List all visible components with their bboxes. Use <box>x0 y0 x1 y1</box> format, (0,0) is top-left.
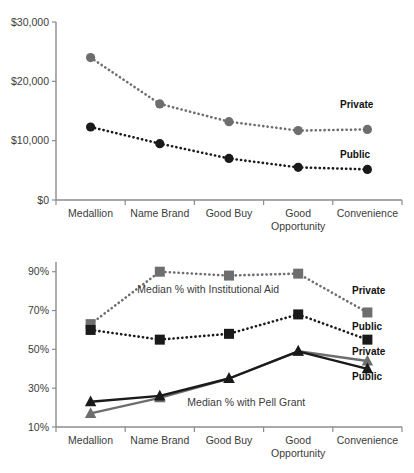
x-axis-tick-label: Medallion <box>68 207 113 219</box>
aid-pell-chart-panel: 10%30%50%70%90%MedallionName BrandGood B… <box>0 240 414 473</box>
data-point-marker <box>86 325 96 335</box>
data-point-marker <box>294 163 303 172</box>
series-label-private: Private <box>340 99 374 110</box>
series-institutional-aid-private <box>86 267 373 329</box>
series-label-public: Public <box>352 321 382 332</box>
y-axis-tick-label: $0 <box>37 194 49 206</box>
x-axis-tick-label: Convenience <box>337 207 398 219</box>
y-axis-tick-label: 70% <box>28 304 49 316</box>
x-axis-tick-label: Opportunity <box>271 220 326 232</box>
data-point-marker <box>224 271 234 281</box>
data-point-marker <box>155 335 165 345</box>
y-axis-tick-label: 30% <box>28 382 49 394</box>
series-institutional-aid-public <box>86 309 373 344</box>
data-point-marker <box>362 307 372 317</box>
data-point-marker <box>363 125 372 134</box>
data-point-marker <box>224 154 233 163</box>
data-point-marker <box>86 122 95 131</box>
series-label-private: Private <box>352 285 386 296</box>
data-point-marker <box>155 99 164 108</box>
data-point-marker <box>224 329 234 339</box>
x-axis-tick-label: Good <box>285 207 311 219</box>
chart-annotation: Median % with Institutional Aid <box>137 283 279 295</box>
data-point-marker <box>293 345 304 356</box>
data-point-marker <box>155 139 164 148</box>
x-axis-tick-label: Good Buy <box>206 207 253 219</box>
data-point-marker <box>294 126 303 135</box>
net-price-plot-area: $0$10,000$20,000$30,000MedallionName Bra… <box>0 0 414 240</box>
x-axis-tick-label: Name Brand <box>130 434 189 446</box>
x-axis-tick-label: Opportunity <box>271 447 326 459</box>
data-point-marker <box>362 335 372 345</box>
y-axis-tick-label: $20,000 <box>11 75 49 87</box>
data-point-marker <box>155 267 165 277</box>
x-axis-tick-label: Name Brand <box>130 207 189 219</box>
x-axis-tick-label: Convenience <box>337 434 398 446</box>
data-point-marker <box>224 117 233 126</box>
x-axis-tick-label: Good Buy <box>206 434 253 446</box>
series-label-public: Public <box>340 149 370 160</box>
data-point-marker <box>293 269 303 279</box>
data-point-marker <box>293 309 303 319</box>
y-axis-tick-label: 10% <box>28 421 49 433</box>
net-price-chart-panel: $0$10,000$20,000$30,000MedallionName Bra… <box>0 0 414 240</box>
series-label-private: Private <box>352 346 386 357</box>
x-axis-tick-label: Medallion <box>68 434 113 446</box>
y-axis-tick-label: $30,000 <box>11 16 49 28</box>
y-axis-tick-label: $10,000 <box>11 134 49 146</box>
data-point-marker <box>363 165 372 174</box>
two-panel-line-chart-figure: $0$10,000$20,000$30,000MedallionName Bra… <box>0 0 414 473</box>
aid-pell-plot-area: 10%30%50%70%90%MedallionName BrandGood B… <box>0 240 414 473</box>
data-point-marker <box>86 53 95 62</box>
y-axis-tick-label: 50% <box>28 343 49 355</box>
series-label-public: Public <box>352 371 382 382</box>
x-axis-tick-label: Good <box>285 434 311 446</box>
series-private <box>86 53 372 135</box>
chart-annotation: Median % with Pell Grant <box>187 396 305 408</box>
y-axis-tick-label: 90% <box>28 265 49 277</box>
